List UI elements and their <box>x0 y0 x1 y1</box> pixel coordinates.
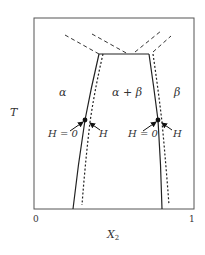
label-right-h: H <box>172 128 182 139</box>
plot-frame <box>34 18 194 209</box>
y-axis-label: T <box>10 106 19 119</box>
x-max-label: 1 <box>189 214 195 224</box>
left-point <box>83 118 88 123</box>
label-right-h0: H = 0 <box>127 128 158 139</box>
region-alpha: α <box>59 86 67 99</box>
phase-diagram: α α + β β H = 0 H H = 0 H T 0 1 X2 <box>0 0 205 255</box>
x-axis-label: X2 <box>106 228 119 242</box>
right-point <box>156 118 161 123</box>
label-left-h0: H = 0 <box>47 128 78 139</box>
x-min-label: 0 <box>33 214 39 224</box>
region-beta: β <box>173 86 180 99</box>
arrow-right-h <box>162 123 172 130</box>
label-left-h: H <box>98 128 108 139</box>
dashed-extensions-top <box>65 31 171 54</box>
region-alpha-beta: α + β <box>112 86 142 99</box>
